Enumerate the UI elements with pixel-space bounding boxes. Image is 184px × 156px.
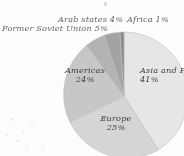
scan-speck: [10, 118, 13, 121]
pie-label-europe-percent: 25%: [92, 123, 140, 132]
pie-chart-screenshot: Arab states 4% Africa 1% Former Soviet U…: [0, 0, 184, 156]
pie-svg: [60, 32, 184, 156]
pie-label-asia-percent: 41%: [140, 75, 184, 84]
pie-label-americas: Americas 24%: [58, 66, 112, 84]
pie-chart: [60, 32, 184, 156]
scan-speck: [22, 130, 24, 132]
pie-label-americas-percent: 24%: [58, 75, 112, 84]
scan-speck: [42, 146, 44, 148]
scan-speck: [16, 140, 19, 142]
scan-artifact-top: [104, 2, 107, 6]
pie-label-africa: Africa 1%: [127, 15, 169, 24]
pie-label-asia-and-pacific: Asia and Pacifi 41%: [140, 66, 184, 84]
pie-label-former-soviet-union: Former Soviet Union 5%: [2, 24, 108, 33]
scan-speck: [26, 148, 28, 150]
pie-slices-group: [60, 32, 184, 156]
pie-label-europe: Europe 25%: [92, 114, 140, 132]
scan-speck: [31, 124, 33, 126]
scan-speck: [6, 134, 8, 136]
